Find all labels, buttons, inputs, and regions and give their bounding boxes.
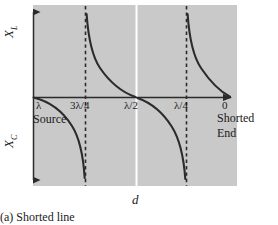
y-axis-label-inductive: XL [2,26,19,38]
reactance-curve [34,14,231,179]
x-axis-title: d [132,192,139,208]
y-axis-label-inductive-text: X [1,30,16,38]
y-axis-label-capacitive: XC [2,135,19,148]
x-tick-lambda: λ [36,99,41,111]
figure-shorted-line: XL XC λ 3λ/4 λ/2 λ/4 0 Source Shorted En… [0,0,278,225]
y-axis-label-capacitive-text: X [1,140,16,148]
branch-inductive-after-3lambda-over-4 [87,14,136,97]
y-axis-label-capacitive-sub: C [10,135,19,140]
x-tick-lambda-over-4: λ/4 [174,99,188,111]
branch-inductive-after-lambda-over-4 [188,14,230,97]
shorted-end-label-line1: Shorted [217,112,254,124]
figure-caption: (a) Shorted line [0,210,75,225]
x-tick-zero: 0 [222,99,228,111]
shorted-end-label-line2: End [217,127,254,139]
y-axis-label-inductive-sub: L [10,26,19,30]
source-label: Source [33,112,66,127]
x-tick-lambda-over-2: λ/2 [124,99,138,111]
x-tick-3lambda-over-4: 3λ/4 [70,99,89,111]
shorted-end-label: Shorted End [217,112,254,139]
